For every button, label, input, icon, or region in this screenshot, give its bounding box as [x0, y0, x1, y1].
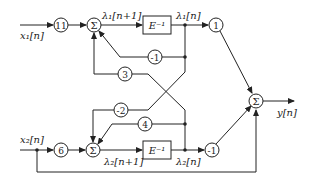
- gain-x2-label: 6: [58, 146, 64, 156]
- feedback-network: -1 3 -2 4: [93, 25, 187, 150]
- lambda2-label: λ₂[n]: [175, 156, 201, 167]
- delay1-label: E⁻¹: [148, 20, 166, 31]
- gain-out1-label: 1: [213, 21, 219, 31]
- y-label: y[n]: [276, 107, 297, 118]
- sum-out-symbol: Σ: [252, 96, 259, 107]
- connector: [220, 31, 252, 93]
- connector: [128, 25, 185, 110]
- sum2-symbol: Σ: [89, 145, 96, 156]
- connector: [132, 74, 185, 150]
- gain-fb12-label: -2: [117, 106, 126, 116]
- gain-x1-label: 11: [55, 21, 66, 31]
- branch-dot: [183, 148, 187, 152]
- block-diagram: x₁[n] 11 Σ λ₁[n+1] E⁻¹ λ₁[n] 1 -1 3 -2: [0, 0, 309, 186]
- lambda2-next-label: λ₂[n+1]: [103, 156, 143, 167]
- gain-fb22-label: 4: [142, 120, 148, 130]
- lambda1-label: λ₁[n]: [175, 10, 201, 21]
- sum1-symbol: Σ: [90, 20, 97, 31]
- connector: [99, 31, 148, 57]
- delay2-label: E⁻¹: [148, 145, 166, 156]
- gain-out2-label: -1: [208, 146, 217, 156]
- connector: [216, 106, 251, 144]
- connector: [98, 124, 138, 144]
- x1-label: x₁[n]: [20, 30, 44, 41]
- x2-label: x₂[n]: [20, 134, 44, 145]
- bottom-branch: x₂[n] 6 Σ λ₂[n+1] E⁻¹ λ₂[n] -1: [20, 106, 256, 172]
- lambda1-next-label: λ₁[n+1]: [101, 10, 141, 21]
- gain-fb21-label: 3: [122, 70, 128, 80]
- gain-fb11-label: -1: [151, 53, 160, 63]
- top-branch: x₁[n] 11 Σ λ₁[n+1] E⁻¹ λ₁[n] 1: [20, 10, 252, 93]
